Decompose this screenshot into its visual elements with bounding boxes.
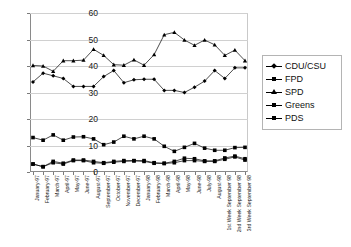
x-tick-label: March-97 <box>55 175 61 197</box>
data-point <box>233 146 237 150</box>
legend-square-marker-icon <box>266 75 282 84</box>
data-point <box>162 162 166 166</box>
data-point <box>122 160 126 164</box>
x-tick-label: 2nd Week September 98 <box>237 175 243 232</box>
x-tick-label: March-98 <box>166 175 172 197</box>
series-layer <box>30 13 248 172</box>
data-point <box>142 160 146 164</box>
x-tick-label: January-98 <box>146 175 152 201</box>
x-tick-label: September-97 <box>106 175 112 208</box>
data-point <box>213 148 217 152</box>
series-spd <box>31 30 247 73</box>
data-point <box>102 161 106 165</box>
legend-label: Greens <box>282 101 315 110</box>
data-point <box>203 160 207 164</box>
data-point <box>132 78 136 82</box>
series-greens <box>31 133 247 153</box>
data-point <box>243 146 247 150</box>
legend-item-pds[interactable]: PDS <box>266 112 337 125</box>
legend-label: CDU/CSU <box>282 62 326 71</box>
x-tick-label: October-97 <box>116 175 122 201</box>
legend-label: SPD <box>282 88 304 97</box>
data-point <box>203 38 207 42</box>
x-tick-label: April-98 <box>176 175 182 193</box>
data-point <box>162 145 166 149</box>
chart-figure: 0102030405060 January-97February-97March… <box>0 0 351 247</box>
data-point <box>61 162 65 166</box>
plot-area <box>30 13 248 172</box>
legend-item-fpd[interactable]: FPD <box>266 73 337 86</box>
data-point <box>41 165 45 169</box>
x-tick-label: November-97 <box>126 175 132 206</box>
legend-item-spd[interactable]: SPD <box>266 86 337 99</box>
legend-label: PDS <box>282 114 304 123</box>
data-point <box>41 138 45 142</box>
data-point <box>203 146 207 150</box>
data-point <box>193 142 197 146</box>
data-point <box>192 43 196 47</box>
data-point <box>172 88 176 92</box>
x-tick-label: July-98 <box>207 175 213 192</box>
data-point <box>51 74 55 78</box>
data-point <box>61 138 65 142</box>
series-cdu-csu <box>31 66 247 95</box>
x-tick-label: August-98 <box>217 175 223 199</box>
x-tick-label: February-98 <box>156 175 162 203</box>
legend-square-marker-icon <box>266 114 282 123</box>
legend-item-cdu-csu[interactable]: CDU/CSU <box>266 60 337 73</box>
data-point <box>72 135 76 139</box>
data-point <box>193 159 197 163</box>
data-point <box>223 157 227 161</box>
data-point <box>233 48 237 52</box>
data-point <box>132 137 136 141</box>
data-point <box>91 47 95 51</box>
x-tick-label: June-98 <box>197 175 203 194</box>
data-point <box>92 161 96 165</box>
data-point <box>183 146 187 150</box>
data-point <box>122 134 126 138</box>
data-point <box>102 53 106 57</box>
data-point <box>112 140 116 144</box>
data-point <box>31 162 35 166</box>
data-point <box>173 161 177 165</box>
legend-item-greens[interactable]: Greens <box>266 99 337 112</box>
data-point <box>142 134 146 138</box>
y-tick <box>27 172 30 173</box>
data-point <box>92 137 96 141</box>
x-tick-label: December-97 <box>136 175 142 206</box>
x-tick-label: April-97 <box>65 175 71 193</box>
data-point <box>132 58 136 62</box>
data-point <box>243 66 247 70</box>
data-point <box>81 84 85 88</box>
data-point <box>82 135 86 139</box>
data-point <box>132 159 136 163</box>
data-point <box>213 43 217 47</box>
data-point <box>173 150 177 154</box>
data-point <box>223 148 227 152</box>
x-tick-label: May-97 <box>75 175 81 192</box>
data-point <box>182 91 186 95</box>
data-point <box>193 85 197 89</box>
x-tick-label: January-97 <box>35 175 41 201</box>
data-point <box>142 77 146 81</box>
data-point <box>183 159 187 163</box>
data-point <box>152 53 156 57</box>
legend-diamond-marker-icon <box>266 62 282 71</box>
x-tick-label: August-97 <box>96 175 102 199</box>
data-point <box>102 143 106 147</box>
x-tick-label: June-97 <box>85 175 91 194</box>
data-point <box>152 161 156 165</box>
x-tick-label: February-97 <box>45 175 51 203</box>
data-point <box>51 133 55 137</box>
legend-square-marker-icon <box>266 101 282 110</box>
data-point <box>51 161 55 165</box>
data-point <box>82 159 86 163</box>
x-tick-label: 3rd Week September 98 <box>247 175 253 231</box>
data-point <box>172 30 176 34</box>
data-point <box>233 155 237 159</box>
data-point <box>31 136 35 140</box>
data-point <box>213 160 217 164</box>
legend-label: FPD <box>282 75 303 84</box>
x-tick-label: May-98 <box>186 175 192 192</box>
x-tick-label: 1st Week September 98 <box>227 175 233 231</box>
